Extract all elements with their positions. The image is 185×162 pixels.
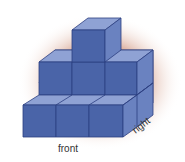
top-cube bbox=[72, 18, 121, 62]
front-label: front bbox=[58, 143, 78, 154]
cube-stack-diagram bbox=[0, 0, 185, 162]
